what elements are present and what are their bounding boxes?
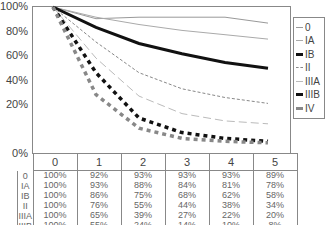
- table-cell: 93%: [77, 181, 121, 191]
- table-header-cell: 1: [77, 154, 121, 171]
- table-cell: 88%: [121, 181, 165, 191]
- table-cell: 68%: [165, 191, 209, 201]
- table-cell: 92%: [77, 171, 121, 181]
- table-cell: 75%: [121, 191, 165, 201]
- table-cell: 62%: [209, 191, 253, 201]
- series-lines: [53, 7, 268, 143]
- legend-swatch-thick-dash-icon: [296, 93, 303, 96]
- table-header-cell: 2: [121, 154, 165, 171]
- table-cell: 14%: [165, 221, 209, 226]
- table-row: IIIA100%65%39%27%22%20%: [18, 211, 298, 221]
- table-row: 0100%92%93%93%93%89%: [18, 171, 298, 181]
- legend-label: IIIB: [305, 89, 320, 100]
- legend-swatch-dashed-line-icon: [296, 67, 303, 68]
- table-cell: 100%: [33, 181, 77, 191]
- table-cell: 44%: [165, 201, 209, 211]
- table-cell: 100%: [33, 211, 77, 221]
- row-label: IB: [18, 191, 34, 201]
- table-cell: 38%: [209, 201, 253, 211]
- row-label: IIIB: [18, 221, 34, 226]
- table-header-cell: 5: [253, 154, 297, 171]
- table-header-cell: 0: [33, 154, 77, 171]
- table-cell: 65%: [77, 211, 121, 221]
- table-cell: 93%: [165, 171, 209, 181]
- table-cell: 58%: [253, 191, 297, 201]
- table-body: 0100%92%93%93%93%89%IA100%93%88%84%81%78…: [18, 171, 298, 226]
- table-cell: 27%: [165, 211, 209, 221]
- table-cell: 81%: [209, 181, 253, 191]
- legend-swatch-thin-line-icon: [296, 40, 303, 41]
- table-cell: 100%: [33, 171, 77, 181]
- table-cell: 86%: [77, 191, 121, 201]
- table-row: IB100%86%75%68%62%58%: [18, 191, 298, 201]
- legend-label: II: [305, 62, 311, 73]
- legend-item-iiia: IIIA: [296, 75, 320, 88]
- legend-label: 0: [305, 22, 311, 33]
- legend-swatch-long-dash-icon: [296, 81, 303, 82]
- legend-item-ib: IB: [296, 48, 314, 61]
- legend-item-iiib: IIIB: [296, 88, 320, 101]
- table-cell: 10%: [209, 221, 253, 226]
- legend-swatch-thick-line-icon: [296, 53, 303, 56]
- table-row: IIIB100%55%24%14%10%8%: [18, 221, 298, 226]
- table-cell: 55%: [77, 221, 121, 226]
- table-cell: 89%: [253, 171, 297, 181]
- legend-label: IV: [305, 103, 314, 114]
- table-row: II100%76%55%44%38%34%: [18, 201, 298, 211]
- table-cell: 93%: [121, 171, 165, 181]
- table-row: IA100%93%88%84%81%78%: [18, 181, 298, 191]
- table-corner: [18, 154, 34, 171]
- row-label: II: [18, 201, 34, 211]
- table-cell: 76%: [77, 201, 121, 211]
- table-cell: 34%: [253, 201, 297, 211]
- table-cell: 39%: [121, 211, 165, 221]
- legend-label: IA: [305, 35, 314, 46]
- table-cell: 100%: [33, 221, 77, 226]
- legend-item-iv: IV: [296, 102, 314, 115]
- table-cell: 55%: [121, 201, 165, 211]
- legend-item-ii: II: [296, 61, 311, 74]
- table-header-cell: 3: [165, 154, 209, 171]
- table-cell: 100%: [33, 191, 77, 201]
- legend-swatch-thin-line-icon: [296, 27, 303, 28]
- row-label: IA: [18, 181, 34, 191]
- legend-label: IIIA: [305, 76, 320, 87]
- row-label: 0: [18, 171, 34, 181]
- table-cell: 93%: [209, 171, 253, 181]
- table-cell: 24%: [121, 221, 165, 226]
- table-header-cell: 4: [209, 154, 253, 171]
- legend-item-0: 0: [296, 21, 311, 34]
- table-cell: 100%: [33, 201, 77, 211]
- line-chart-plot: [0, 0, 326, 160]
- legend: 0 IA IB II IIIA IIIB IV: [293, 17, 325, 119]
- legend-swatch-gray-dash-icon: [296, 107, 303, 110]
- data-table: 0 1 2 3 4 5 0100%92%93%93%93%89%IA100%93…: [17, 153, 298, 225]
- table-cell: 22%: [209, 211, 253, 221]
- table-cell: 84%: [165, 181, 209, 191]
- table-header-row: 0 1 2 3 4 5: [18, 154, 298, 171]
- table-cell: 78%: [253, 181, 297, 191]
- row-label: IIIA: [18, 211, 34, 221]
- table-cell: 8%: [253, 221, 297, 226]
- legend-item-ia: IA: [296, 34, 314, 47]
- table-cell: 20%: [253, 211, 297, 221]
- legend-label: IB: [305, 49, 314, 60]
